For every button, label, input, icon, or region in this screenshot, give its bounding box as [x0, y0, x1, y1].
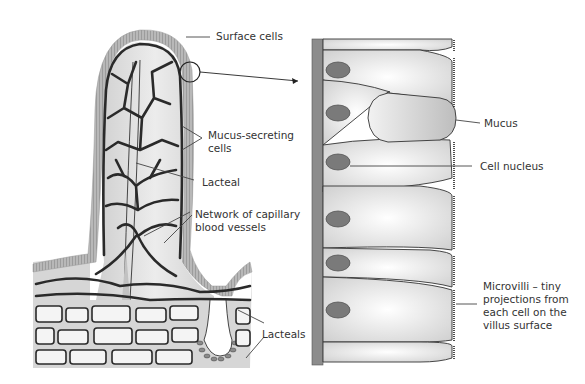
label-microvilli-4: villus surface — [483, 319, 552, 331]
epithelium-illustration — [312, 39, 456, 365]
label-lacteals: Lacteals — [262, 328, 305, 340]
villus-diagram: Surface cells Mucus-secreting cells Lact… — [0, 0, 585, 384]
arrow-head-icon — [292, 78, 298, 84]
label-mucus: Mucus — [484, 117, 518, 129]
label-blood-vessels: blood vessels — [195, 221, 266, 233]
label-microvilli-3: each cell on the — [483, 306, 567, 318]
label-capillary-network: Network of capillary — [195, 208, 300, 220]
label-lacteal: Lacteal — [202, 176, 240, 188]
label-surface-cells: Surface cells — [216, 30, 283, 42]
label-mucus-secreting-cells: cells — [208, 142, 232, 154]
villus-illustration — [33, 30, 298, 368]
label-mucus-secreting: Mucus-secreting — [208, 129, 294, 141]
label-microvilli-2: projections from — [483, 293, 569, 305]
label-cell-nucleus: Cell nucleus — [480, 160, 544, 172]
basement-membrane — [312, 39, 323, 365]
goblet-mucus — [368, 93, 456, 142]
magnify-arrow — [200, 72, 298, 81]
label-microvilli-1: Microvilli – tiny — [483, 280, 561, 292]
